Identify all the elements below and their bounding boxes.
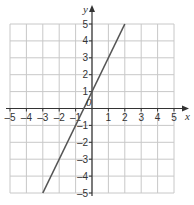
y-axis-label: y [82, 3, 88, 15]
y-tick-label: 5 [82, 19, 88, 30]
y-tick-label: –4 [77, 171, 89, 182]
y-tick-label: –1 [77, 120, 89, 131]
y-tick-label: 4 [82, 35, 88, 46]
x-tick-label: 1 [106, 112, 112, 123]
coordinate-graph: –5–4–3–2–112345–5–4–3–2–112345 x y 0 [0, 0, 194, 205]
x-tick-label: 2 [122, 112, 128, 123]
y-tick-label: 2 [82, 69, 88, 80]
x-tick-label: 4 [155, 112, 161, 123]
x-tick-label: –2 [54, 112, 66, 123]
origin-label: 0 [86, 96, 92, 108]
x-axis-label: x [184, 110, 190, 122]
y-tick-label: –5 [77, 188, 89, 199]
y-tick-label: –2 [77, 137, 89, 148]
x-tick-label: –5 [4, 112, 16, 123]
y-tick-label: 3 [82, 52, 88, 63]
x-tick-label: 3 [138, 112, 144, 123]
y-tick-label: –3 [77, 154, 89, 165]
x-tick-label: 5 [171, 112, 177, 123]
axes [6, 5, 189, 196]
x-tick-label: –3 [37, 112, 49, 123]
y-axis-arrow-icon [89, 5, 95, 12]
x-tick-label: –4 [21, 112, 33, 123]
